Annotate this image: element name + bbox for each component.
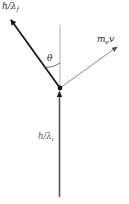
collision-point-dot xyxy=(58,86,63,91)
scattered-photon-vector xyxy=(11,20,60,88)
incident-arrowhead-icon xyxy=(57,91,62,98)
vector-diagram-svg xyxy=(0,0,129,204)
compton-scattering-diagram: h/λf θ mev h/λi xyxy=(0,0,129,204)
scattered-photon-label: h/λf xyxy=(2,2,19,12)
electron-momentum-vector xyxy=(60,47,117,88)
electron-momentum-label: mev xyxy=(97,35,114,45)
theta-angle-arc xyxy=(45,63,60,68)
incident-photon-label: h/λi xyxy=(38,132,54,142)
theta-label: θ xyxy=(47,54,52,63)
